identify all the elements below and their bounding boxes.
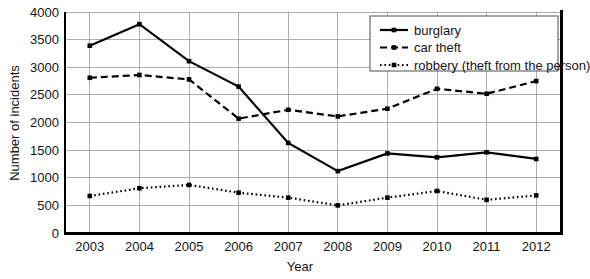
x-tick-label: 2007	[274, 239, 303, 254]
data-point-marker	[187, 183, 192, 188]
chart-container: 05001000150020002500300035004000 2003200…	[0, 0, 590, 279]
legend-label: car theft	[414, 40, 461, 55]
legend-marker-sample	[392, 63, 397, 68]
data-point-marker	[385, 195, 390, 200]
data-point-marker	[88, 75, 93, 80]
series-line	[90, 75, 536, 119]
legend-marker-sample	[392, 45, 397, 50]
y-tick-label: 0	[52, 226, 59, 241]
series-robbery	[88, 183, 539, 208]
data-point-marker	[88, 194, 93, 199]
data-point-marker	[137, 22, 142, 27]
x-tick-label: 2004	[125, 239, 154, 254]
y-axis-title: Number of incidents	[7, 65, 22, 181]
data-point-marker	[484, 91, 489, 96]
x-tick-label: 2008	[323, 239, 352, 254]
data-point-marker	[187, 77, 192, 82]
legend-marker-sample	[392, 28, 397, 33]
x-tick-label: 2003	[75, 239, 104, 254]
data-point-marker	[435, 155, 440, 160]
data-point-marker	[286, 107, 291, 112]
y-tick-label: 1000	[30, 170, 59, 185]
data-point-marker	[236, 190, 241, 195]
data-point-marker	[236, 84, 241, 89]
legend: burglarycar theftrobbery (theft from the…	[370, 16, 590, 73]
x-tick-label: 2011	[473, 239, 501, 254]
data-point-marker	[336, 203, 341, 208]
legend-label: burglary	[414, 23, 461, 38]
x-tick-label: 2005	[175, 239, 204, 254]
data-point-marker	[236, 116, 241, 121]
data-point-marker	[286, 141, 291, 146]
data-point-marker	[534, 79, 539, 84]
y-tick-label: 1500	[30, 143, 59, 158]
data-point-marker	[534, 157, 539, 162]
y-tick-label: 2000	[30, 115, 59, 130]
x-axis-title: Year	[287, 259, 314, 274]
x-tick-label: 2012	[522, 239, 551, 254]
data-point-marker	[484, 198, 489, 203]
y-axis-tick-labels: 05001000150020002500300035004000	[30, 5, 59, 241]
data-point-marker	[336, 169, 341, 174]
x-tick-label: 2006	[224, 239, 253, 254]
data-point-marker	[137, 73, 142, 78]
y-tick-label: 3000	[30, 60, 59, 75]
legend-label: robbery (theft from the person)	[414, 58, 590, 73]
data-point-marker	[385, 106, 390, 111]
data-point-marker	[336, 114, 341, 119]
data-point-marker	[435, 189, 440, 194]
data-point-marker	[484, 150, 489, 155]
series-line	[90, 185, 536, 205]
series-car	[88, 73, 539, 121]
x-axis-tick-labels: 2003200420052006200720082009201020112012	[75, 239, 550, 254]
y-tick-label: 3500	[30, 32, 59, 47]
y-tick-label: 4000	[30, 5, 59, 20]
y-tick-label: 2500	[30, 87, 59, 102]
data-point-marker	[286, 195, 291, 200]
data-point-marker	[88, 43, 93, 48]
data-point-marker	[385, 151, 390, 156]
line-chart: 05001000150020002500300035004000 2003200…	[0, 0, 590, 279]
data-point-marker	[137, 186, 142, 191]
data-point-marker	[534, 193, 539, 198]
x-tick-label: 2010	[423, 239, 452, 254]
data-point-marker	[187, 59, 192, 64]
y-tick-label: 500	[37, 198, 59, 213]
x-tick-label: 2009	[373, 239, 402, 254]
data-point-marker	[435, 86, 440, 91]
